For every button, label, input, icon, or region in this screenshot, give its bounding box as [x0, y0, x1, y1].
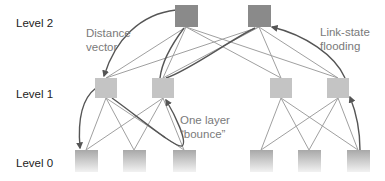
node-level0-2 — [123, 150, 146, 172]
level1-nodes — [95, 78, 349, 98]
node-level0-4 — [250, 150, 273, 172]
distance-vector-line2: vector — [86, 40, 131, 54]
node-level1-2 — [152, 78, 174, 98]
link-state-annotation: Link-state flooding — [320, 25, 370, 53]
node-level1-1 — [95, 78, 117, 98]
node-level0-6 — [347, 150, 370, 172]
bounce-line2: “bounce” — [180, 127, 230, 141]
distance-vector-annotation: Distance vector — [86, 26, 131, 54]
level-2-label: Level 2 — [16, 17, 53, 29]
level-0-label: Level 0 — [16, 157, 53, 169]
node-level2-2 — [248, 5, 271, 27]
link-state-line1: Link-state — [320, 25, 370, 39]
node-level0-1 — [75, 150, 98, 172]
level-1-label: Level 1 — [16, 88, 53, 100]
distance-vector-line1: Distance — [86, 26, 131, 40]
node-level1-3 — [270, 78, 292, 98]
bounce-line1: One layer — [180, 113, 230, 127]
node-level1-4 — [327, 78, 349, 98]
level0-nodes — [75, 150, 370, 172]
edges-l2-l1 — [106, 27, 338, 78]
node-level2-1 — [175, 5, 198, 27]
link-state-line2: flooding — [320, 39, 370, 53]
level2-nodes — [175, 5, 271, 27]
node-level0-3 — [173, 150, 196, 172]
bounce-annotation: One layer “bounce” — [180, 113, 230, 141]
node-level0-5 — [298, 150, 321, 172]
